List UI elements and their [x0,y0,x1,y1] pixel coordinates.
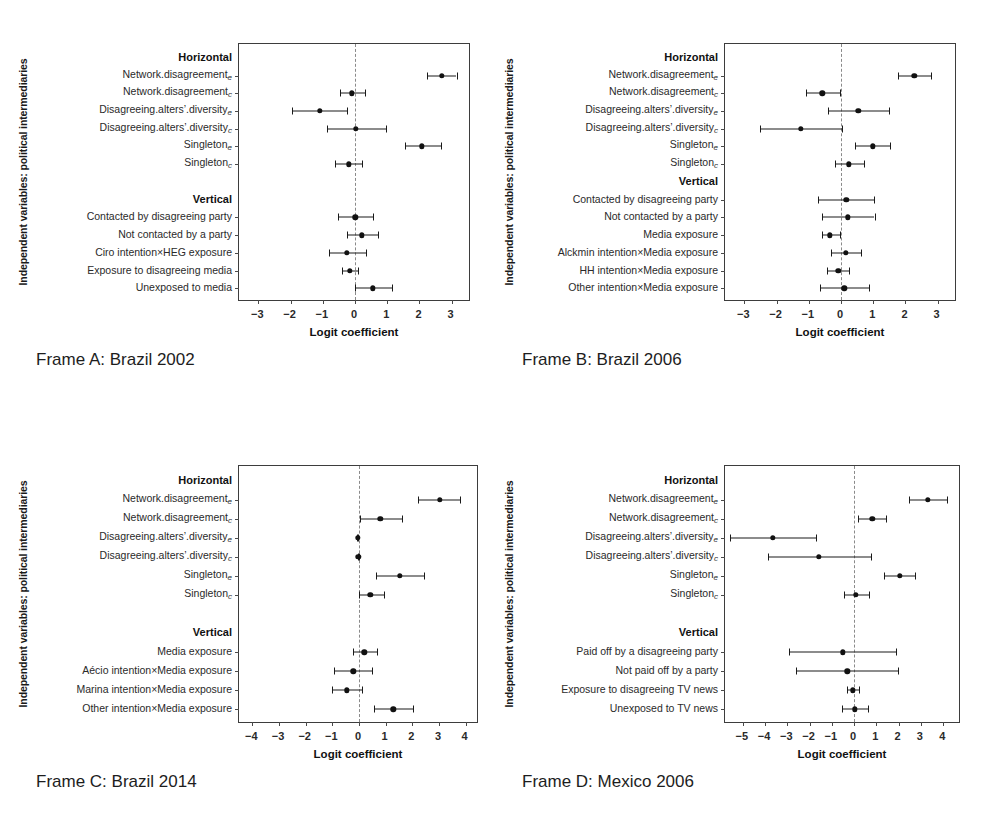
y-tick [721,709,725,710]
point-estimate [840,650,845,655]
y-tick [721,652,725,653]
x-tick-label: −4 [758,730,771,742]
label-subscript: c [714,516,718,525]
point-estimate [816,554,821,559]
variable-label: Disagreeing.alters’.diversityc [586,550,718,562]
x-tick [943,722,944,726]
y-tick [721,690,725,691]
ci-cap-upper [859,687,860,694]
ci-cap-lower [842,706,843,713]
variable-label: Singletonc [670,588,718,600]
y-tick [721,538,725,539]
ci-cap-lower [768,554,769,561]
ci-cap-lower [844,592,845,599]
label-subscript: c [714,554,718,563]
ci-cap-upper [816,534,817,541]
group-header-vertical: Vertical [679,627,718,638]
x-tick-label: −2 [802,730,815,742]
x-tick-label: 2 [895,730,901,742]
x-tick [810,722,811,726]
x-tick [921,722,922,726]
label-subscript: e [714,573,718,582]
variable-label: Singletone [670,569,718,581]
x-tick [765,722,766,726]
ci-cap-upper [915,573,916,580]
x-tick-label: −5 [736,730,749,742]
ci-cap-lower [884,573,885,580]
y-tick [721,576,725,577]
variable-label: Disagreeing.alters’.diversitye [585,531,718,543]
variable-label: Exposure to disagreeing TV news [561,684,718,695]
ci-cap-lower [909,496,910,503]
point-estimate [870,516,875,521]
x-tick [876,722,877,726]
point-estimate [897,573,902,578]
point-estimate [770,535,775,540]
x-tick [743,722,744,726]
frame-caption-frame-d: Frame D: Mexico 2006 [522,772,694,792]
label-subscript: e [714,535,718,544]
x-tick-label: 3 [917,730,923,742]
variable-label: Paid off by a disagreeing party [576,646,718,657]
x-tick-label: 4 [939,730,945,742]
ci-cap-upper [896,649,897,656]
point-estimate [845,669,850,674]
ci-cap-lower [858,515,859,522]
x-tick-label: −1 [825,730,838,742]
y-axis-title: Independent variables: political interme… [500,465,518,723]
ci-cap-lower [730,534,731,541]
ci-cap-lower [847,687,848,694]
label-subscript: e [714,497,718,506]
coefficient-plot-figure: Independent variables: political interme… [0,0,985,815]
ci-cap-upper [947,496,948,503]
variable-label: Not paid off by a party [615,665,718,676]
x-tick-label: 0 [850,730,856,742]
x-tick [854,722,855,726]
y-tick [721,500,725,501]
x-tick-label: 1 [872,730,878,742]
variable-label: Unexposed to TV news [610,703,718,714]
point-estimate [925,497,930,502]
y-tick [721,595,725,596]
ci-cap-lower [789,649,790,656]
ci-cap-upper [868,706,869,713]
plot-area-frame-d [724,465,960,723]
group-header-horizontal: Horizontal [664,474,718,485]
ci-cap-upper [886,515,887,522]
panel-frame-d: Independent variables: political interme… [0,0,985,815]
variable-label: Network.disagreementc [609,512,718,524]
y-tick [721,671,725,672]
x-axis-title: Logit coefficient [798,748,887,760]
ci-cap-upper [869,592,870,599]
x-tick [787,722,788,726]
y-tick [721,557,725,558]
label-subscript: c [714,592,718,601]
x-tick-label: −3 [780,730,793,742]
y-tick [721,519,725,520]
x-tick [832,722,833,726]
ci-cap-upper [898,668,899,675]
variable-label: Network.disagreemente [609,493,719,505]
ci-cap-upper [871,554,872,561]
point-estimate [853,592,858,597]
point-estimate [852,707,857,712]
x-tick [899,722,900,726]
ci-cap-lower [796,668,797,675]
